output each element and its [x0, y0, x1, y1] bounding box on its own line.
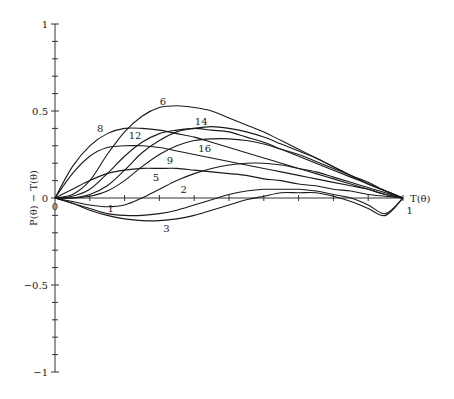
curve-label-1: 1	[107, 203, 113, 214]
y-tick-label: −1	[33, 367, 48, 378]
curve-label-5: 5	[153, 172, 159, 183]
y-axis-label: P(θ) − T(θ)	[28, 170, 39, 226]
x-axis-label: T(θ)	[410, 193, 431, 204]
curve-label-6: 6	[160, 96, 166, 107]
curve-label-16: 16	[198, 143, 211, 154]
curve-label-12: 12	[129, 130, 142, 141]
curve-label-8: 8	[97, 123, 103, 134]
chart-container: 10.50−0.5−10 68121416952131 P(θ) − T(θ) …	[0, 0, 454, 399]
y-tick-label: −0.5	[24, 280, 48, 291]
curve-14	[55, 127, 403, 199]
y-tick-label: 0.5	[32, 106, 48, 117]
curve-9	[55, 146, 403, 198]
axes: 10.50−0.5−10	[24, 19, 403, 378]
y-tick-label: 1	[42, 19, 48, 30]
x-end-label: 1	[406, 205, 412, 216]
curve-label-3: 3	[163, 223, 169, 234]
line-chart: 10.50−0.5−10 68121416952131 P(θ) − T(θ) …	[0, 0, 454, 399]
y-tick-label: 0	[42, 193, 48, 204]
x-tick-label: 0	[52, 201, 58, 212]
curve-5	[55, 168, 403, 198]
curve-label-9: 9	[167, 155, 173, 166]
curve-label-2: 2	[181, 184, 187, 195]
curve-label-14: 14	[195, 116, 208, 127]
